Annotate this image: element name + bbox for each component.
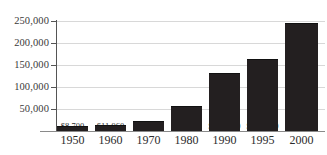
bar-1970[interactable] [133, 121, 164, 131]
x-axis-tick-labels: 1950 1960 1970 1980 1990 1995 2000 [57, 133, 325, 153]
y-tick-label-50000: 50,000 [1, 104, 49, 115]
bar-1995[interactable] [247, 59, 278, 131]
y-tick-label-200000: 200,000 [1, 38, 49, 49]
bar-1980[interactable] [171, 106, 202, 131]
bar-1990[interactable] [209, 73, 240, 131]
x-tick-label-1980: 1980 [167, 133, 206, 148]
bar-2000[interactable] [285, 23, 318, 131]
x-axis-baseline [40, 131, 325, 132]
x-tick-label-1995: 1995 [243, 133, 282, 148]
x-tick-label-1950: 1950 [53, 133, 92, 148]
x-tick-label-1970: 1970 [129, 133, 168, 148]
x-tick-label-1960: 1960 [91, 133, 130, 148]
y-tick-label-150000: 150,000 [1, 60, 49, 71]
bar-chart: 250,000 200,000 150,000 100,000 50,000 $… [0, 0, 327, 155]
x-tick-label-1990: 1990 [205, 133, 244, 148]
y-tick-label-100000: 100,000 [1, 82, 49, 93]
bar-1960[interactable] [95, 125, 126, 131]
x-tick-label-2000: 2000 [282, 133, 321, 148]
y-tick-label-250000: 250,000 [1, 16, 49, 27]
bar-1950[interactable] [57, 126, 88, 131]
plot-area: $8,700 $11,960 $19,550 $54,780 $128,640 … [57, 10, 325, 131]
